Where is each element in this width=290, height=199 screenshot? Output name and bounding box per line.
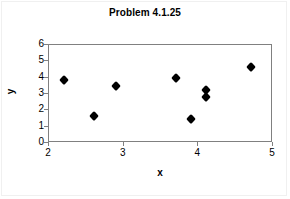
y-tick-mark [44, 93, 48, 94]
y-tick-label: 4 [30, 72, 44, 82]
data-point [246, 62, 256, 72]
y-tick-mark [44, 60, 48, 61]
y-tick-label: 3 [30, 88, 44, 98]
x-tick-mark [197, 142, 198, 146]
data-point [111, 81, 121, 91]
plot-area [48, 44, 272, 142]
y-axis-title: y [5, 89, 16, 95]
chart-title: Problem 4.1.25 [0, 7, 290, 18]
x-tick-label: 3 [113, 147, 133, 158]
x-tick-mark [48, 142, 49, 146]
y-tick-label: 5 [30, 55, 44, 65]
y-axis-tick-labels: 0123456 [28, 44, 44, 142]
x-axis-tick-labels: 2345 [48, 147, 272, 161]
x-tick-mark [123, 142, 124, 146]
data-point [201, 92, 211, 102]
x-axis-title: x [48, 167, 272, 178]
y-tick-mark [44, 44, 48, 45]
y-tick-mark [44, 109, 48, 110]
y-tick-mark [44, 126, 48, 127]
data-point [171, 74, 181, 84]
y-tick-label: 2 [30, 104, 44, 114]
x-tick-label: 2 [38, 147, 58, 158]
y-tick-label: 1 [30, 121, 44, 131]
y-tick-label: 0 [30, 137, 44, 147]
scatter-chart: Problem 4.1.25 0123456 y 2345 x [0, 0, 290, 199]
x-tick-mark [272, 142, 273, 146]
data-point [59, 75, 69, 85]
y-tick-label: 6 [30, 39, 44, 49]
y-tick-mark [44, 77, 48, 78]
data-point [89, 111, 99, 121]
x-tick-label: 5 [262, 147, 282, 158]
data-point [186, 114, 196, 124]
x-tick-label: 4 [187, 147, 207, 158]
